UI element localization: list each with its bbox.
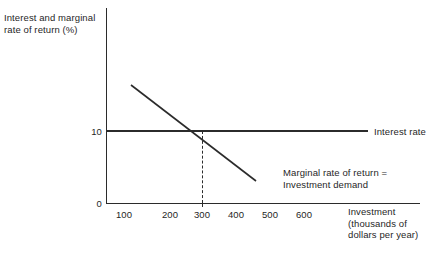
x-axis-title-line-3: dollars per year)	[348, 229, 418, 240]
mrr-label-line-2: Investment demand	[283, 179, 368, 190]
x-axis-title-line-2: (thousands of	[348, 218, 407, 229]
interest-rate-label: Interest rate	[374, 126, 426, 138]
x-axis-title: Investment (thousands of dollars per yea…	[348, 206, 418, 241]
marginal-rate-of-return-label: Marginal rate of return = Investment dem…	[283, 167, 387, 190]
x-axis-title-line-1: Investment	[348, 206, 395, 217]
mrr-label-line-1: Marginal rate of return =	[283, 167, 387, 178]
chart-figure: Interest and marginal rate of return (%)…	[0, 0, 440, 255]
